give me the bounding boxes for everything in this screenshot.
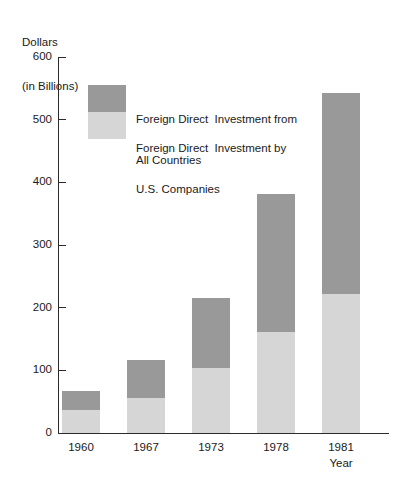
bar-1973 bbox=[192, 298, 230, 433]
bar-segment-us-companies bbox=[192, 368, 230, 433]
x-axis-tick-label: 1960 bbox=[53, 441, 109, 453]
y-axis-title-line1: Dollars bbox=[22, 35, 78, 50]
bar-segment-us-companies bbox=[322, 294, 360, 433]
x-axis-title: Year bbox=[313, 457, 369, 469]
legend-swatch-us-companies bbox=[88, 112, 126, 139]
bar-segment-all-countries bbox=[192, 298, 230, 369]
bar-1981 bbox=[322, 93, 360, 433]
bar-1960 bbox=[62, 391, 100, 433]
y-axis-tick bbox=[59, 307, 66, 308]
bar-segment-us-companies bbox=[127, 398, 165, 433]
y-axis-tick-label: 0 bbox=[46, 427, 52, 439]
x-axis-tick-label: 1981 bbox=[313, 441, 369, 453]
bar-segment-us-companies bbox=[257, 332, 295, 433]
bar-1978 bbox=[257, 194, 295, 433]
bar-segment-us-companies bbox=[62, 410, 100, 433]
bar-segment-all-countries bbox=[127, 360, 165, 398]
y-axis-tick bbox=[59, 119, 66, 120]
y-axis-tick-label: 500 bbox=[33, 114, 52, 126]
bar-segment-all-countries bbox=[322, 93, 360, 294]
y-axis-tick-labels: 0100200300400500600 bbox=[0, 57, 52, 434]
bar-chart: Dollars (in Billions) 010020030040050060… bbox=[0, 0, 393, 484]
legend-label-us-companies-line1: Foreign Direct Investment by bbox=[136, 142, 286, 156]
bar-segment-all-countries bbox=[62, 391, 100, 410]
y-axis-tick bbox=[59, 370, 66, 371]
legend-label-us-companies: Foreign Direct Investment by U.S. Compan… bbox=[136, 115, 286, 223]
y-axis-tick-label: 600 bbox=[33, 51, 52, 63]
x-axis-tick-label: 1973 bbox=[183, 441, 239, 453]
bar-1967 bbox=[127, 360, 165, 433]
legend: Foreign Direct Investment from All Count… bbox=[88, 85, 318, 142]
y-axis-tick bbox=[59, 57, 66, 58]
y-axis-tick-label: 100 bbox=[33, 364, 52, 376]
legend-label-us-companies-line2: U.S. Companies bbox=[136, 183, 286, 197]
x-axis-line bbox=[58, 433, 389, 434]
y-axis-tick bbox=[59, 245, 66, 246]
y-axis-tick-label: 300 bbox=[33, 239, 52, 251]
y-axis-tick bbox=[59, 182, 66, 183]
legend-swatch-all-countries bbox=[88, 85, 126, 112]
y-axis-tick-label: 400 bbox=[33, 176, 52, 188]
x-axis-tick-label: 1978 bbox=[248, 441, 304, 453]
y-axis-tick-label: 200 bbox=[33, 302, 52, 314]
x-axis-tick-label: 1967 bbox=[118, 441, 174, 453]
